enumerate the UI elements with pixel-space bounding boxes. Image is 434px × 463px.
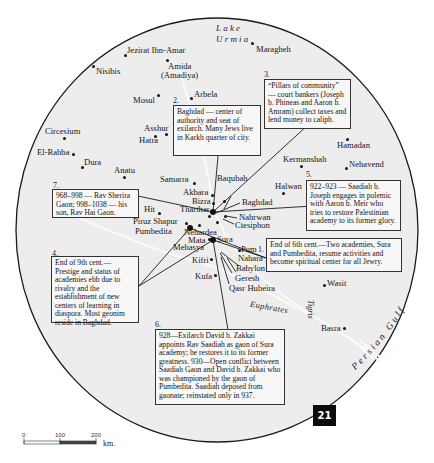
label-sura: Sura	[217, 235, 233, 244]
dot-nisibis	[92, 65, 95, 68]
dot-circesium	[63, 137, 66, 140]
scale-tick-100: 100	[55, 432, 65, 438]
dot-samarra	[193, 182, 196, 185]
label-dura: Dura	[84, 158, 101, 167]
scale-tick-200: 200	[91, 432, 101, 438]
note-2-number: 2.	[173, 96, 179, 105]
label-hit: Hit	[144, 205, 155, 214]
dot-ctesiphon	[216, 221, 219, 224]
label-arbela: Arbela	[194, 90, 217, 99]
label-qasr: Qasr Hubeira	[229, 284, 275, 293]
label-nehavend: Nehavend	[349, 160, 384, 169]
dot-kifri	[210, 258, 213, 261]
label-hamadan: Hamadan	[337, 141, 370, 150]
note-3-number: 3.	[264, 70, 270, 79]
note-6-number: 6.	[155, 320, 161, 329]
label-nisibis: Nisibis	[96, 67, 120, 76]
label-kermanshah: Kermanshah	[283, 155, 326, 164]
dot-mosul	[157, 94, 160, 97]
dot-basra	[343, 327, 346, 330]
label-asshur: Asshur	[144, 124, 168, 133]
lake-label-line1: Lake	[216, 23, 251, 34]
label-nahara: Nahara	[238, 254, 263, 263]
dot-wasit	[323, 284, 326, 287]
label-anatu: Anatu	[114, 166, 135, 175]
dot-nehavend	[345, 167, 348, 170]
dot-hit	[158, 212, 161, 215]
dot-nahrwan	[224, 215, 227, 218]
note-1-box: End of 6th cent.—Two academies, Sura and…	[266, 238, 402, 272]
dot-kufa	[214, 274, 217, 277]
label-halwan: Halwan	[275, 182, 302, 191]
dot-tharthar	[208, 215, 211, 218]
dot-asshur	[165, 133, 168, 136]
label-geresh: Geresh	[235, 274, 259, 283]
scale-unit: km.	[103, 439, 115, 448]
label-mehasya: Mehasya	[173, 243, 204, 252]
dot-piruz	[185, 222, 188, 225]
label-basra: Basra	[321, 324, 341, 333]
label-kifri: Kifri	[192, 256, 209, 265]
dot-bizra	[212, 202, 215, 205]
label-ctesiphon: Ctesiphon	[235, 221, 270, 230]
label-maragheh: Maragheh	[256, 45, 291, 54]
tigris-label: Tigris	[306, 300, 315, 319]
note-4-box: End of 9th cent.— Prestige and status of…	[51, 256, 139, 323]
note-2-box: Baghdad — center of authority and seat o…	[173, 105, 261, 156]
label-baghdad: Baghdad	[242, 198, 273, 207]
dot-baghdad	[210, 209, 216, 215]
label-babylon: Babylon	[236, 264, 265, 273]
label-baqubah: Baqubah	[217, 174, 248, 183]
dot-sura	[210, 237, 216, 243]
note-3-box: “Pillars of community” — court bankers (…	[264, 79, 351, 129]
label-hatra: Hatra	[139, 136, 158, 145]
scale-bar	[24, 438, 96, 444]
lake-urmia-label: Lake Urmia	[216, 23, 251, 45]
lake-label-line2: Urmia	[216, 34, 251, 45]
note-7-box: 968–998 — Rav Sherira Gaon; 998–1038 — h…	[52, 189, 139, 218]
label-wasit: Wasit	[327, 279, 346, 288]
label-kufa: Kufa	[195, 272, 212, 281]
dot-elrahba	[72, 153, 75, 156]
label-mosul: Mosul	[133, 96, 155, 105]
dot-maragheh	[251, 42, 254, 45]
dot-halwan	[282, 192, 285, 195]
label-circesium: Circesium	[45, 127, 80, 136]
label-amadiya: (Amadiya)	[161, 71, 198, 80]
dot-baqubah	[223, 200, 226, 203]
label-jezirat: Jezirat Ibn-Amar	[127, 46, 185, 55]
dot-akbara	[211, 194, 214, 197]
dot-kermanshah	[300, 165, 303, 168]
label-piruz: Piruz Shapur	[133, 217, 178, 226]
label-tharthar: Tharthar	[180, 205, 210, 214]
note-5-number: 5.	[306, 170, 312, 179]
page-number-badge: 21	[313, 405, 336, 426]
label-elrahba: El-Rahba	[37, 148, 69, 157]
note-6-box: 928—Exilarch David b. Zakkai appoints Ra…	[155, 329, 285, 405]
label-pumbedita: Pumbedita	[135, 227, 172, 236]
scale-tick-0: 0	[22, 432, 25, 438]
note-5-box: 922–923 — Saadiah b. Joseph engages in p…	[306, 180, 401, 231]
dot-anatu	[123, 176, 126, 179]
label-samarra: Samarra	[160, 175, 189, 184]
dot-arbela	[190, 97, 193, 100]
